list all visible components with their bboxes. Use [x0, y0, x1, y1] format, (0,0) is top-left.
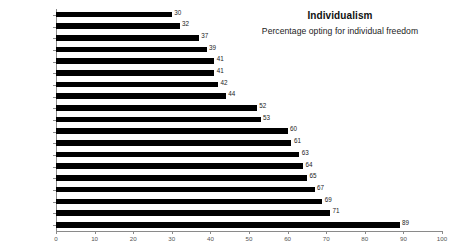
bar-value-label: 89 [402, 219, 409, 226]
bar-value-label: 37 [201, 32, 208, 39]
y-axis-tick [53, 108, 56, 109]
bar [56, 175, 307, 181]
bar-row: USA69 [56, 196, 442, 208]
individualism-bar-chart: Individualism Percentage opting for indi… [0, 0, 454, 252]
y-axis-tick [53, 202, 56, 203]
bar-value-label: 44 [228, 90, 235, 97]
bar-value-label: 32 [182, 20, 189, 27]
y-axis-tick [53, 143, 56, 144]
bar [56, 152, 299, 158]
x-axis-tick [365, 231, 366, 234]
x-axis-tick-label: 20 [130, 235, 137, 242]
bar-value-label: 41 [217, 55, 224, 62]
y-axis-tick [53, 73, 56, 74]
x-axis-tick [326, 231, 327, 234]
bar [56, 47, 207, 53]
x-axis-tick [172, 231, 173, 234]
bar-value-label: 67 [317, 184, 324, 191]
bar-row: UK61 [56, 138, 442, 150]
bar-value-label: 42 [221, 79, 228, 86]
bar-row: Denmark67 [56, 184, 442, 196]
y-axis-tick [53, 120, 56, 121]
x-axis-tick-label: 70 [323, 235, 330, 242]
bar [56, 70, 214, 76]
bar-value-label: 30 [174, 9, 181, 16]
bar-value-label: 41 [217, 67, 224, 74]
y-axis-tick [53, 85, 56, 86]
bar-row: Mexico32 [56, 21, 442, 33]
bar-row: Canada71 [56, 208, 442, 220]
x-axis-tick-label: 40 [207, 235, 214, 242]
bar-value-label: 65 [309, 172, 316, 179]
x-axis-tick-label: 10 [91, 235, 98, 242]
bar [56, 12, 172, 18]
bar [56, 163, 303, 169]
y-axis-tick [53, 62, 56, 63]
bar-value-label: 63 [302, 149, 309, 156]
bar [56, 117, 261, 123]
x-axis-tick [249, 231, 250, 234]
bar [56, 222, 400, 228]
y-axis-tick [53, 190, 56, 191]
bar [56, 82, 218, 88]
bar-row: China41 [56, 67, 442, 79]
bar [56, 93, 226, 99]
x-axis-tick [210, 231, 211, 234]
y-axis-tick [53, 213, 56, 214]
x-axis-tick-label: 80 [361, 235, 368, 242]
y-axis-tick [53, 225, 56, 226]
x-axis-tick [403, 231, 404, 234]
x-axis-tick [288, 231, 289, 234]
bar-row: India37 [56, 32, 442, 44]
bar-value-label: 69 [325, 196, 332, 203]
y-axis-tick [53, 15, 56, 16]
x-axis-tick-label: 30 [168, 235, 175, 242]
bar [56, 128, 288, 134]
bar-row: Australia63 [56, 149, 442, 161]
bar-row: Indonesia44 [56, 91, 442, 103]
bar-row: Russia60 [56, 126, 442, 138]
bar-row: Japan39 [56, 44, 442, 56]
bar [56, 35, 199, 41]
bar-value-label: 52 [259, 102, 266, 109]
x-axis-tick [442, 231, 443, 234]
bar [56, 140, 291, 146]
y-axis-tick [53, 132, 56, 133]
bar [56, 58, 214, 64]
bar-row: Finland64 [56, 161, 442, 173]
x-axis-tick-label: 60 [284, 235, 291, 242]
bar [56, 23, 180, 29]
bar-value-label: 64 [306, 161, 313, 168]
plot-area: Egypt30Mexico32India37Japan39France41Chi… [56, 9, 442, 231]
y-axis-tick [53, 38, 56, 39]
bar-row: France41 [56, 56, 442, 68]
x-axis-tick-label: 90 [400, 235, 407, 242]
y-axis-tick [53, 97, 56, 98]
bar-row: Germany53 [56, 114, 442, 126]
y-axis-tick [53, 167, 56, 168]
bar-value-label: 60 [290, 125, 297, 132]
x-axis-tick-label: 100 [437, 235, 447, 242]
bar-value-label: 53 [263, 114, 270, 121]
bar-value-label: 71 [333, 207, 340, 214]
bar [56, 187, 315, 193]
y-axis-tick [53, 178, 56, 179]
y-axis-tick [53, 155, 56, 156]
bar-row: Singapore42 [56, 79, 442, 91]
bar-row: Israel89 [56, 219, 442, 231]
y-axis-tick [53, 27, 56, 28]
bar-row: Netherlands65 [56, 173, 442, 185]
x-axis-tick-label: 0 [54, 235, 57, 242]
bar-row: Italy52 [56, 102, 442, 114]
bar [56, 210, 330, 216]
x-axis-tick [133, 231, 134, 234]
bar-row: Egypt30 [56, 9, 442, 21]
bar-value-label: 39 [209, 44, 216, 51]
x-axis-tick-label: 50 [246, 235, 253, 242]
x-axis-tick [56, 231, 57, 234]
bar [56, 199, 322, 205]
y-axis-tick [53, 50, 56, 51]
x-axis-tick [95, 231, 96, 234]
bar-value-label: 61 [294, 137, 301, 144]
bar [56, 105, 257, 111]
